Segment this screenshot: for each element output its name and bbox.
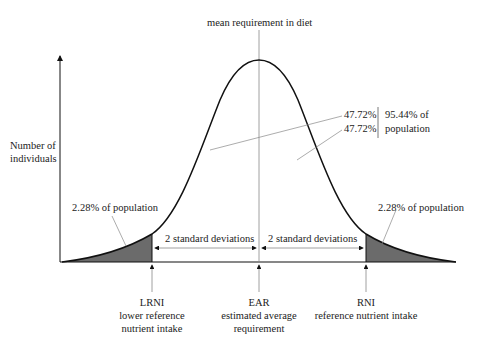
- left-tail-label: 2.28% of population: [72, 201, 158, 214]
- left-tail-shade: [62, 234, 152, 262]
- lower-pct: 47.72%: [344, 122, 376, 135]
- diagram-graphics: [0, 0, 481, 347]
- ear-abbr: EAR: [209, 296, 309, 309]
- right-tail-shade: [366, 234, 456, 262]
- right-tail-label: 2.28% of population: [378, 201, 464, 214]
- ear-line2: requirement: [209, 322, 309, 335]
- y-axis-label-2: individuals: [10, 152, 57, 165]
- lrni-line2: nutrient intake: [102, 322, 202, 335]
- upper-pct: 47.72%: [344, 108, 376, 121]
- title: mean requirement in diet: [207, 16, 312, 29]
- normal-distribution-diagram: mean requirement in diet Number of indiv…: [0, 0, 481, 347]
- lrni-abbr: LRNI: [102, 296, 202, 309]
- sd-right-label: 2 standard deviations: [268, 232, 357, 245]
- total-pct-2: population: [385, 122, 430, 135]
- lrni-line1: lower reference: [102, 309, 202, 322]
- y-axis-label-1: Number of: [10, 139, 56, 152]
- rni-line1: reference nutrient intake: [306, 309, 426, 322]
- ear-line1: estimated average: [209, 309, 309, 322]
- total-pct: 95.44% of: [385, 108, 429, 121]
- rni-abbr: RNI: [306, 296, 426, 309]
- sd-left-label: 2 standard deviations: [165, 232, 254, 245]
